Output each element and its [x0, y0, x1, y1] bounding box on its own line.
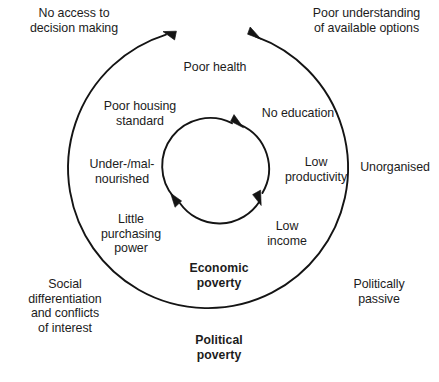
- label-poor-housing-standard: Poor housing standard: [88, 99, 192, 128]
- label-under-malnourished: Under-/mal- nourished: [76, 157, 168, 186]
- label-poor-health: Poor health: [158, 60, 272, 75]
- inner-arrow-top-icon: [231, 115, 244, 128]
- label-economic-poverty: Economic poverty: [167, 261, 271, 290]
- inner-circle: [162, 118, 269, 224]
- label-no-education: No education: [250, 106, 346, 121]
- label-low-productivity: Low productivity: [274, 155, 358, 184]
- label-unorganised: Unorganised: [352, 160, 438, 175]
- label-no-access-decision-making: No access to decision making: [4, 6, 144, 35]
- inner-arrow-bottom-left-icon: [171, 193, 182, 207]
- inner-arrow-right-icon: [253, 190, 262, 205]
- outer-arrow-top-right-icon: [248, 27, 261, 39]
- label-social-differentiation: Social differentiation and conflicts of …: [6, 277, 124, 335]
- label-low-income: Low income: [250, 219, 324, 248]
- label-political-poverty: Political poverty: [167, 333, 271, 362]
- diagram-canvas: No access to decision making Poor unders…: [0, 0, 439, 382]
- label-politically-passive: Politically passive: [330, 277, 428, 306]
- label-little-purchasing-power: Little purchasing power: [90, 212, 172, 256]
- label-poor-understanding-options: Poor understanding of available options: [294, 6, 439, 35]
